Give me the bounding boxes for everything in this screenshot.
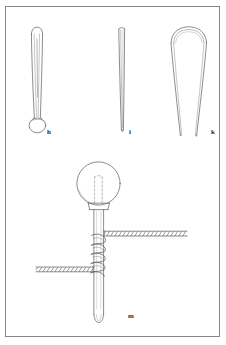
figure-k-hairpin-loop <box>166 25 212 140</box>
figure-label-k: k <box>211 129 215 136</box>
figure-i-plain-rod <box>110 25 136 140</box>
figure-m-globe-headed-cross-pin <box>58 159 188 329</box>
illustration-plate: h i <box>0 0 226 345</box>
figure-label-i: i <box>129 129 131 136</box>
figure-label-h: h <box>47 129 51 136</box>
figure-h-bulb-headed-pin <box>20 25 56 140</box>
figure-label-m: m <box>128 313 134 320</box>
plate-frame: h i <box>5 6 220 337</box>
